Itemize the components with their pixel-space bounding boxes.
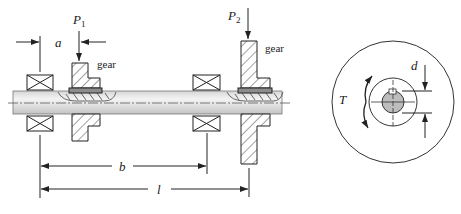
shaft-diagram: P1 gear P2 gear a b l [0, 0, 461, 214]
dimension-label-l: l [157, 182, 161, 197]
load-label-p2: P2 [227, 8, 240, 25]
load-label-p1: P1 [72, 12, 85, 29]
dimension-label-b: b [119, 159, 126, 174]
gear-label-2: gear [265, 42, 284, 54]
key-1 [69, 88, 102, 93]
key-section [389, 89, 396, 94]
key-2 [238, 88, 272, 93]
gear-label-1: gear [97, 58, 116, 70]
side-view: P1 gear P2 gear a b l [8, 8, 292, 198]
end-view: T d [332, 41, 454, 163]
diameter-label-d: d [411, 58, 418, 73]
shaft [13, 91, 282, 114]
torque-label: T [339, 92, 347, 107]
dimension-l [41, 168, 249, 197]
dimension-label-a: a [55, 35, 62, 50]
